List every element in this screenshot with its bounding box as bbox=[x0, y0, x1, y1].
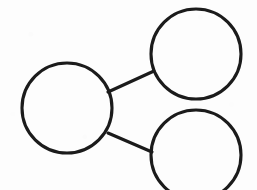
diagram-canvas bbox=[0, 0, 257, 190]
canvas-background bbox=[0, 0, 257, 190]
graph-diagram bbox=[0, 0, 257, 190]
